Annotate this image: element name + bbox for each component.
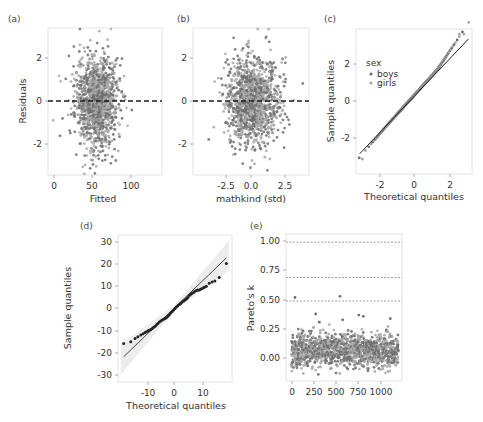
data-point — [395, 363, 398, 366]
data-point — [266, 169, 269, 172]
data-point — [106, 60, 109, 63]
data-point — [106, 38, 109, 41]
data-point — [232, 121, 235, 124]
data-point — [286, 116, 289, 119]
data-point — [98, 78, 101, 81]
y-tick-label: 2 — [181, 53, 187, 63]
data-point — [274, 74, 277, 77]
data-point — [252, 82, 255, 85]
data-point — [85, 98, 88, 101]
data-point — [280, 61, 283, 64]
data-point — [58, 74, 61, 77]
data-point — [258, 59, 261, 62]
data-point — [287, 118, 290, 121]
data-point — [248, 135, 251, 138]
data-point — [245, 89, 248, 92]
panel-a: (a) 2 0 -2 Residuals 0 50 100 Fitted — [8, 14, 162, 204]
data-point — [230, 140, 233, 143]
y-axis-label-c: Sample quantiles — [325, 60, 336, 142]
y-tick-label: 30 — [101, 237, 113, 247]
data-point — [119, 80, 122, 83]
data-point — [343, 359, 346, 362]
data-point — [105, 107, 108, 110]
data-point — [80, 78, 83, 81]
data-point — [97, 98, 100, 101]
data-point — [91, 58, 94, 61]
data-point — [111, 72, 114, 75]
panel-label-b: (b) — [177, 14, 190, 24]
data-point — [396, 361, 399, 364]
data-point — [227, 130, 230, 133]
data-point — [78, 87, 81, 90]
data-point — [100, 141, 103, 144]
data-point — [240, 117, 243, 120]
data-point — [269, 158, 272, 161]
data-point — [388, 370, 391, 373]
data-point — [98, 128, 101, 131]
data-point — [233, 79, 236, 82]
data-point — [213, 80, 216, 83]
data-point — [69, 80, 72, 83]
data-point — [247, 140, 250, 143]
data-point — [91, 125, 94, 128]
data-point — [396, 346, 399, 349]
data-point — [371, 336, 374, 339]
data-point — [353, 364, 356, 367]
data-point — [232, 62, 235, 65]
data-point — [237, 122, 240, 125]
data-point — [233, 65, 236, 68]
data-point — [102, 119, 105, 122]
data-point — [52, 119, 55, 122]
data-point — [270, 70, 273, 73]
data-point — [252, 107, 255, 110]
data-point — [241, 85, 244, 88]
data-point — [279, 121, 282, 124]
data-point — [92, 86, 95, 89]
data-point — [232, 57, 235, 60]
legend-title: sex — [366, 58, 382, 68]
data-point — [232, 36, 235, 39]
data-point — [260, 63, 263, 66]
data-point — [353, 352, 356, 355]
data-point — [230, 99, 233, 102]
data-point — [253, 64, 256, 67]
data-point — [95, 140, 98, 143]
data-point — [75, 72, 78, 75]
data-point — [238, 125, 241, 128]
data-point — [234, 130, 237, 133]
data-point — [85, 139, 88, 142]
data-point — [275, 92, 278, 95]
data-point — [123, 75, 126, 78]
data-point — [231, 114, 234, 117]
data-point — [83, 86, 86, 89]
data-point — [294, 296, 297, 299]
data-point — [78, 50, 81, 53]
data-point — [260, 73, 263, 76]
panel-label-a: (a) — [8, 14, 21, 24]
data-point — [109, 100, 112, 103]
data-point — [397, 344, 400, 347]
data-point — [117, 103, 120, 106]
data-point — [110, 140, 113, 143]
data-point — [78, 93, 81, 96]
data-point — [100, 122, 103, 125]
data-point — [243, 72, 246, 75]
data-point — [389, 333, 392, 336]
data-point — [89, 39, 92, 42]
x-tick-label: 10 — [197, 388, 209, 398]
data-point — [278, 88, 281, 91]
data-point — [102, 107, 105, 110]
data-point — [373, 366, 376, 369]
data-point — [227, 104, 230, 107]
data-point — [230, 102, 233, 105]
data-point — [362, 331, 365, 334]
data-point — [333, 329, 336, 332]
data-point — [296, 366, 299, 369]
data-point — [78, 60, 81, 63]
data-point — [246, 98, 249, 101]
data-point — [72, 65, 75, 68]
data-point — [223, 131, 226, 134]
data-point — [99, 139, 102, 142]
data-point — [270, 99, 273, 102]
x-axis-d: -10 0 10 Theoretical quantiles — [125, 382, 226, 411]
